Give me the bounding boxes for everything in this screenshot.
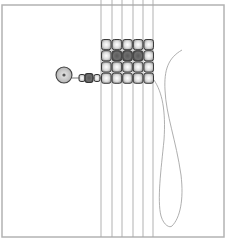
bead-light	[102, 51, 112, 61]
bead-light	[133, 40, 143, 50]
bead-light	[123, 62, 133, 72]
bead-light	[112, 40, 122, 50]
bead-light	[144, 62, 154, 72]
tail-bead-light	[79, 75, 85, 82]
bead-light	[144, 51, 154, 61]
bead-dark	[123, 51, 133, 61]
bead-light	[102, 40, 112, 50]
weft-thread-tail-lower	[154, 80, 172, 227]
weft-thread	[154, 50, 182, 227]
tail-bead-light	[94, 75, 100, 82]
bead-light	[112, 73, 122, 83]
bead-light	[123, 73, 133, 83]
bead-light	[123, 40, 133, 50]
bead-light	[144, 73, 154, 83]
bead-light	[133, 73, 143, 83]
bead-grid	[102, 40, 154, 84]
bead-dark	[133, 51, 143, 61]
bead-loom-diagram	[0, 0, 237, 252]
bead-light	[144, 40, 154, 50]
warp-threads	[101, 0, 153, 237]
bead-light	[102, 73, 112, 83]
bead-light	[112, 62, 122, 72]
tail-bead-dark	[85, 74, 93, 83]
stop-bead-hole	[62, 73, 65, 76]
bead-light	[102, 62, 112, 72]
weft-thread-tail-upper	[165, 50, 182, 226]
tail-beads	[56, 67, 101, 83]
bead-dark	[112, 51, 122, 61]
bead-light	[133, 62, 143, 72]
